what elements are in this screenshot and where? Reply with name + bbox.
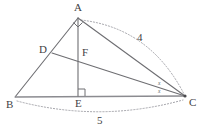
point-label-B: B [6,99,13,110]
vertex-dot-C [183,94,186,97]
right-angle-marker-E [78,89,85,96]
point-label-C: C [189,97,196,108]
length-label-BC: 5 [97,115,103,126]
point-label-F: F [82,47,88,58]
geometry-diagram: A B C D E F x x 4 5 [0,0,206,135]
segment-AB [15,18,78,97]
geometry-canvas [0,0,206,135]
angle-label-x-lower: x [158,89,160,95]
angle-label-x-upper: x [158,81,160,87]
arc-BC-measure [17,100,183,112]
segment-DC [52,53,185,96]
segment-BC [15,96,185,97]
segment-AC [78,18,185,96]
point-label-A: A [74,2,82,13]
length-label-AC: 4 [137,32,143,43]
point-label-D: D [39,44,47,55]
point-label-E: E [75,98,82,109]
